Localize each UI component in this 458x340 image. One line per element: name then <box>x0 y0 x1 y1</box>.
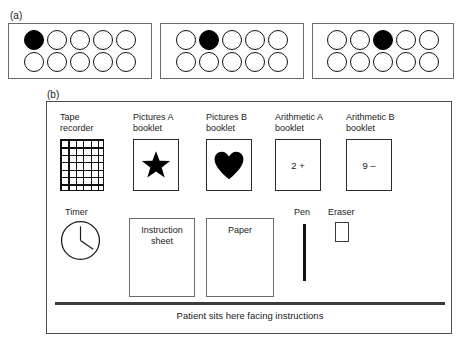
dot-empty <box>47 30 67 50</box>
arithmetic-b-booklet: 9 – <box>346 139 392 191</box>
dot-empty <box>327 52 347 72</box>
star-icon <box>141 150 171 180</box>
pictures-b-booklet <box>206 139 252 191</box>
dot-empty <box>93 30 113 50</box>
dot-empty <box>116 30 136 50</box>
panel-b-room-layout: Tape recorder Pictures A booklet Picture… <box>46 101 452 334</box>
dot-empty <box>268 52 288 72</box>
dot-empty <box>245 30 265 50</box>
pictures-a-booklet <box>133 139 179 191</box>
dot-empty <box>419 52 439 72</box>
table-edge-line <box>55 302 445 305</box>
timer-clock-icon <box>60 220 101 261</box>
instruction-sheet: Instruction sheet <box>129 218 195 297</box>
eraser-icon <box>335 222 349 242</box>
patient-seat-note: Patient sits here facing instructions <box>47 310 453 321</box>
dot-empty <box>373 52 393 72</box>
arithmetic-b-text: 9 – <box>362 160 375 171</box>
dot-empty <box>93 52 113 72</box>
paper-sheet: Paper <box>206 218 274 297</box>
dot-empty <box>419 30 439 50</box>
dot-row <box>176 30 288 50</box>
dot-empty <box>396 52 416 72</box>
dot-empty <box>222 52 242 72</box>
dot-empty <box>70 30 90 50</box>
dot-empty <box>116 52 136 72</box>
arithmetic-a-booklet: 2 + <box>275 139 321 191</box>
dot-empty <box>176 30 196 50</box>
dot-row <box>24 30 136 50</box>
dot-empty <box>396 30 416 50</box>
caption-tape-recorder: Tape recorder <box>60 112 94 133</box>
heart-icon <box>214 151 244 180</box>
caption-timer: Timer <box>65 207 88 218</box>
panel-a: (a) <box>0 0 458 92</box>
caption-pen: Pen <box>294 207 310 218</box>
dot-row <box>327 52 439 72</box>
dot-row <box>327 30 439 50</box>
caption-pictures-b: Pictures B booklet <box>206 112 247 133</box>
dot-empty <box>222 30 242 50</box>
dot-box-3 <box>312 23 454 79</box>
dot-empty <box>327 30 347 50</box>
dot-empty <box>176 52 196 72</box>
dot-filled <box>373 30 393 50</box>
panel-b-label: (b) <box>47 89 59 100</box>
pen-icon <box>303 224 306 281</box>
dot-empty <box>199 52 219 72</box>
tape-recorder-icon <box>60 139 104 191</box>
dot-filled <box>24 30 44 50</box>
panel-a-label: (a) <box>10 10 22 21</box>
caption-arithmetic-b: Arithmetic B booklet <box>346 112 395 133</box>
dot-box-1 <box>8 23 152 79</box>
dot-row <box>176 52 288 72</box>
caption-arithmetic-a: Arithmetic A booklet <box>275 112 323 133</box>
dot-empty <box>350 30 370 50</box>
dot-empty <box>245 52 265 72</box>
dot-empty <box>350 52 370 72</box>
dot-empty <box>47 52 67 72</box>
dot-row <box>24 52 136 72</box>
dot-empty <box>268 30 288 50</box>
caption-eraser: Eraser <box>328 207 355 218</box>
dot-empty <box>70 52 90 72</box>
arithmetic-a-text: 2 + <box>291 160 304 171</box>
caption-pictures-a: Pictures A booklet <box>133 112 174 133</box>
dot-filled <box>199 30 219 50</box>
dot-empty <box>24 52 44 72</box>
dot-box-2 <box>160 23 304 79</box>
